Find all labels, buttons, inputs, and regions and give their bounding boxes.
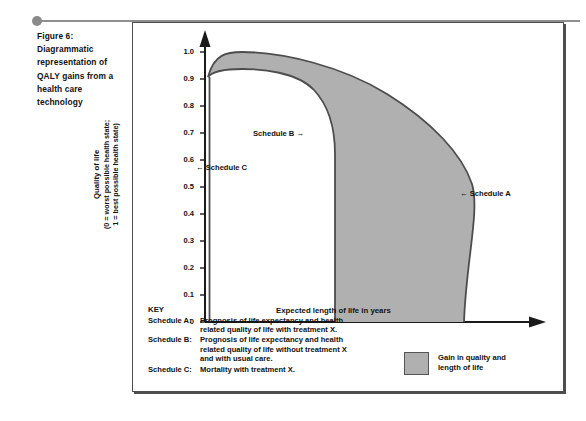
annotation-schedule-a: ← Schedule A bbox=[460, 189, 511, 198]
key-label-schedule-b: Schedule B: bbox=[148, 335, 200, 364]
gain-legend-label: Gain in quality and length of life bbox=[438, 352, 506, 372]
y-tick-label: 0.3 bbox=[170, 236, 194, 245]
key-legend: KEY Schedule A: Prognosis of life expect… bbox=[148, 305, 347, 374]
y-tick-label: 0.6 bbox=[170, 155, 194, 164]
y-tick-label: 0.7 bbox=[170, 128, 194, 137]
y-tick-label: 1.0 bbox=[170, 47, 194, 56]
y-tick-label: 0.1 bbox=[170, 290, 194, 299]
figure-box-shadow-right bbox=[564, 24, 566, 394]
figure-box-shadow-bottom bbox=[134, 392, 566, 394]
y-axis-title-sub: (0 = worst possible health state; 1 = be… bbox=[102, 59, 121, 289]
y-tick-label: 0.4 bbox=[170, 209, 194, 218]
key-label-schedule-a: Schedule A: bbox=[148, 316, 200, 335]
key-title: KEY bbox=[148, 305, 347, 315]
x-axis-arrowhead bbox=[529, 317, 546, 328]
gain-legend: Gain in quality and length of life bbox=[404, 352, 506, 375]
key-desc-schedule-a: Prognosis of life expectancy and health … bbox=[200, 316, 343, 335]
y-axis-title-main: Quality of life bbox=[92, 59, 102, 289]
key-row-schedule-b: Schedule B: Prognosis of life expectancy… bbox=[148, 335, 347, 364]
annotation-schedule-b: Schedule B → bbox=[253, 129, 304, 138]
y-tick-label: 0.5 bbox=[170, 182, 194, 191]
annotation-schedule-c: ← Schedule C bbox=[196, 163, 247, 172]
key-desc-schedule-c: Mortality with treatment X. bbox=[200, 365, 295, 375]
y-tick-label: 0.8 bbox=[170, 101, 194, 110]
key-row-schedule-c: Schedule C: Mortality with treatment X. bbox=[148, 365, 347, 375]
key-label-schedule-c: Schedule C: bbox=[148, 365, 200, 375]
schedule-b-curve bbox=[208, 69, 335, 322]
y-axis-arrowhead bbox=[200, 30, 211, 47]
key-row-schedule-a: Schedule A: Prognosis of life expectancy… bbox=[148, 316, 347, 335]
header-rule-dot bbox=[32, 16, 42, 26]
key-desc-schedule-b: Prognosis of life expectancy and health … bbox=[200, 335, 347, 364]
y-tick-label: 0.2 bbox=[170, 263, 194, 272]
gain-area bbox=[208, 52, 474, 322]
y-tick-label: 0.9 bbox=[170, 74, 194, 83]
y-axis-title: Quality of life (0 = worst possible heal… bbox=[92, 59, 121, 289]
gain-swatch bbox=[404, 352, 429, 375]
